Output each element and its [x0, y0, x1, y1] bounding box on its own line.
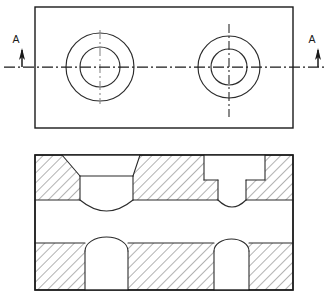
section-label-left-text: A — [12, 33, 19, 45]
technical-drawing-svg: A A — [0, 0, 328, 305]
section-label-right-text: A — [308, 33, 315, 45]
section-marker-right: A — [308, 33, 321, 67]
right-counterbore-hole — [198, 24, 260, 117]
lower-right-void-fill — [214, 239, 249, 290]
lower-left-void-fill — [85, 237, 128, 290]
engineering-drawing-canvas: A A — [0, 0, 328, 305]
section-marker-left: A — [12, 33, 25, 67]
lower-left-dome-void-feature — [85, 237, 128, 290]
top-view-group — [4, 7, 324, 128]
lower-hatch-region — [35, 237, 293, 290]
lower-right-dome-void-feature — [214, 239, 249, 290]
section-view-group — [35, 155, 293, 290]
